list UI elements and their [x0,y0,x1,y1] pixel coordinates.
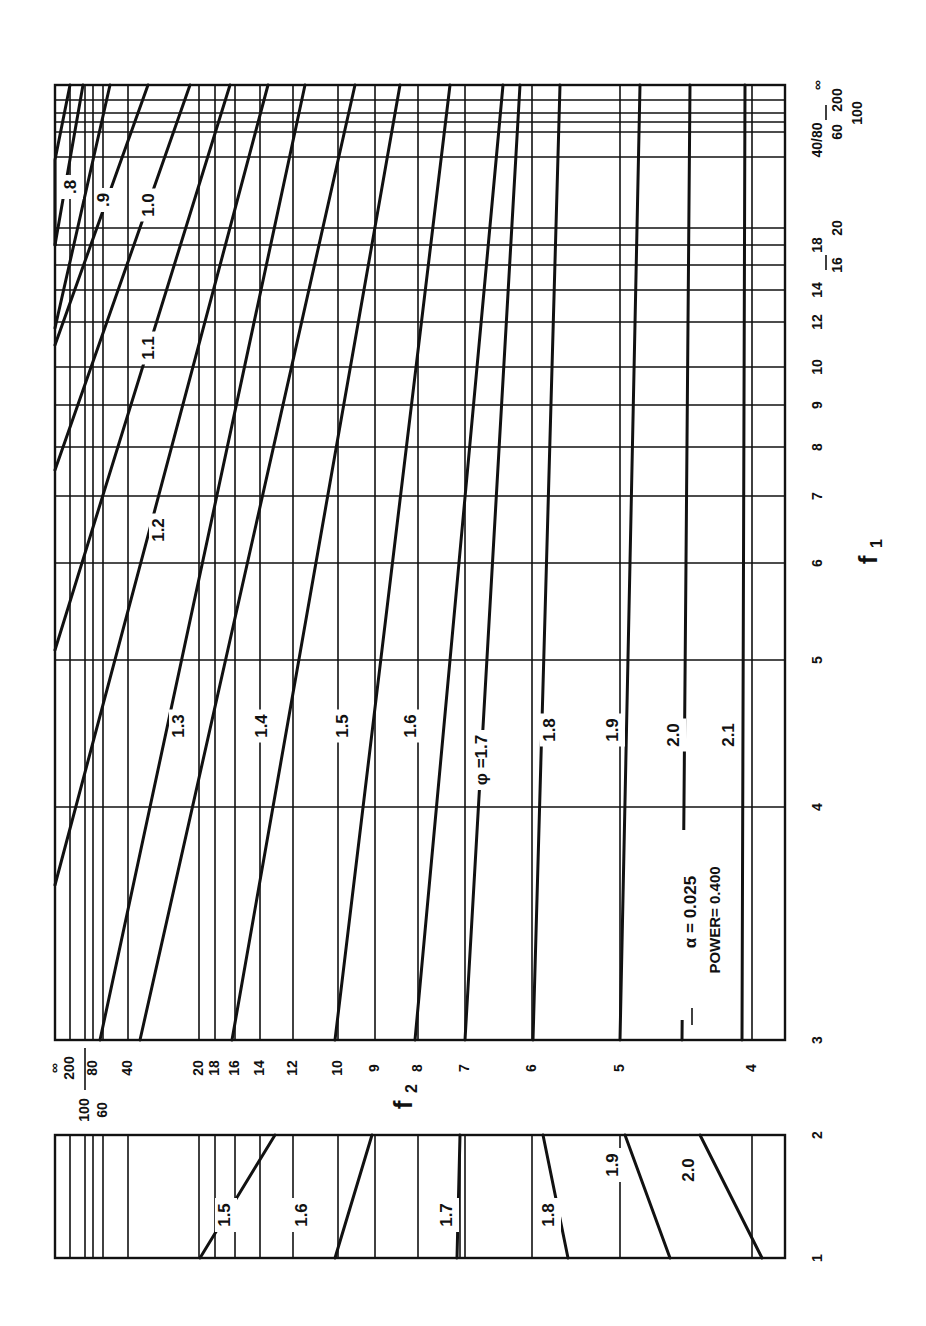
f1-tick-label: 2 [809,1131,825,1139]
phi-label: 1.6 [292,1203,311,1227]
f2-tick-label: 9 [366,1064,382,1072]
phi-curve [543,1135,568,1258]
phi-label: 2.0 [679,1158,698,1182]
phi-label: .8 [61,180,80,194]
phi-label: 1.9 [603,1153,622,1177]
phi-label: φ =1.7 [472,735,491,785]
f2-tick-label: 5 [611,1064,627,1072]
f2-tick-label: 18 [206,1060,222,1076]
f2-tick-label: 14 [251,1060,267,1076]
f2-tick-label: 80 [84,1060,100,1076]
f1-tick-label: 3 [809,1036,825,1044]
lower-panel-grid [70,1135,752,1258]
power-value: POWER= 0.400 [706,866,723,973]
f1-axis-title: f1 [853,539,885,564]
phi-label: 1.9 [603,718,622,742]
f1-axis-tick-labels: 345678910121416182040/8060100200∞21 [809,80,865,1262]
phi-label: 1.8 [540,718,559,742]
f2-tick-label: 16 [226,1060,242,1076]
f1-tick-label: 40/80 [809,122,825,157]
f2-tick-label: 200 [61,1056,77,1080]
f1-tick-label: 4 [809,803,825,811]
phi-curve [200,1135,275,1258]
f2-tick-label: 12 [284,1060,300,1076]
f1-tick-label: 9 [809,401,825,409]
f2-tick-label: 20 [190,1060,206,1076]
f1-tick-label: 6 [809,559,825,567]
phi-label: 1.3 [169,714,188,738]
svg-text:f: f [388,1100,418,1109]
f1-tick-label: 5 [809,656,825,664]
f1-tick-label: 200 [829,88,845,112]
power-nomograph: .8.91.01.11.21.31.41.51.6φ =1.71.81.92.0… [0,0,926,1326]
f2-tick-label: 100 [76,1098,92,1122]
f1-tick-label: 10 [809,359,825,375]
f2-tick-label: 7 [456,1064,472,1072]
axis-titles: f1f2 [388,539,885,1109]
f1-tick-label: 12 [809,314,825,330]
f2-axis-title: f2 [388,1084,420,1109]
phi-label: 1.2 [149,518,168,542]
phi-label: 1.7 [437,1203,456,1227]
f2-tick-label: 8 [409,1064,425,1072]
phi-label: 1.0 [139,193,158,217]
f1-tick-label: 14 [809,282,825,298]
phi-label: 2.1 [719,723,738,747]
phi-curve [55,85,268,885]
f2-tick-label: 4 [743,1064,759,1072]
f2-tick-label: 60 [94,1102,110,1118]
lower-panel-border [55,1135,785,1258]
phi-label: 1.1 [139,336,158,360]
f1-tick-label: 100 [849,101,865,125]
f1-tick-label: ∞ [809,80,825,90]
phi-curve [625,1135,670,1258]
f1-tick-label: 18 [809,237,825,253]
f2-tick-label: 10 [329,1060,345,1076]
f1-tick-label: 20 [829,220,845,236]
f2-tick-label: 40 [119,1060,135,1076]
svg-text:1: 1 [868,539,885,548]
phi-label: 2.0 [664,723,683,747]
phi-label: 1.5 [333,714,352,738]
svg-text:2: 2 [403,1084,420,1093]
f1-tick-label: 7 [809,492,825,500]
lower-panel-phi-curves [200,1135,762,1258]
phi-label: 1.4 [252,714,271,738]
f1-tick-label: 8 [809,443,825,451]
phi-label: 1.5 [215,1203,234,1227]
alpha-power-annotation: α = 0.025POWER= 0.400 [678,830,723,1025]
svg-text:f: f [853,555,883,564]
f1-tick-label: 16 [829,257,845,273]
phi-label: 1.8 [539,1203,558,1227]
f2-axis-tick-labels: ∞200804020181614121098765410060 [46,1048,759,1122]
f1-tick-label: 60 [829,124,845,140]
alpha-value: α = 0.025 [681,876,700,948]
f2-tick-label: ∞ [46,1063,62,1073]
phi-curve [335,1135,372,1258]
phi-label: 1.6 [401,714,420,738]
f2-tick-label: 6 [523,1064,539,1072]
f1-tick-label: 1 [809,1254,825,1262]
phi-label: .9 [94,193,113,207]
main-panel-grid [55,85,785,1040]
